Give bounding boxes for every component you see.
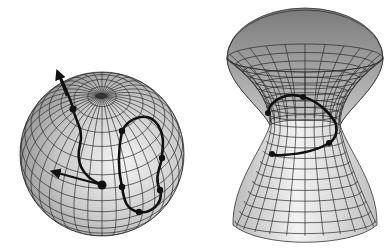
sphere-pole <box>95 93 107 99</box>
sphere-loop-point <box>159 155 165 161</box>
hyperboloid-point <box>265 110 271 116</box>
sphere-panel <box>20 72 184 236</box>
sphere-loop-point <box>157 187 163 193</box>
hyperboloid-point <box>300 94 306 100</box>
sphere-loop-point <box>119 184 125 190</box>
hyperboloid-point <box>269 151 275 157</box>
hyperboloid-panel <box>227 8 383 242</box>
sphere-loop-point <box>119 128 125 134</box>
hyperboloid-point <box>326 140 332 146</box>
sphere-loop-point <box>136 209 142 215</box>
figure <box>0 0 390 251</box>
sphere-point <box>70 106 77 113</box>
sphere-point <box>98 181 107 190</box>
